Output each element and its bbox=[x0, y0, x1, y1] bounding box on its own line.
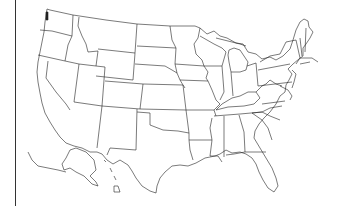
ia-il-border bbox=[204, 66, 208, 81]
nd-sd-border bbox=[137, 46, 176, 48]
or-ca-nv-border bbox=[38, 55, 65, 61]
ne-ia-border bbox=[177, 73, 185, 88]
ut-co-border bbox=[96, 66, 105, 106]
alaska bbox=[62, 148, 98, 186]
nv-ut-border bbox=[74, 64, 79, 102]
wi-upper-mi bbox=[200, 36, 226, 66]
ut-az-border bbox=[74, 102, 102, 106]
la-tx-border bbox=[189, 140, 193, 160]
wa-or-border bbox=[40, 30, 72, 36]
va-nc-border bbox=[262, 101, 285, 104]
ct-ri-border bbox=[300, 62, 310, 64]
or-id-border bbox=[65, 36, 72, 61]
id-mt-border bbox=[78, 17, 98, 66]
wy-border bbox=[96, 49, 135, 80]
mn-ia-border bbox=[175, 64, 204, 66]
dakotas-mn-border bbox=[170, 26, 177, 73]
oh-pa-border bbox=[247, 63, 258, 86]
mi-upper-peninsula bbox=[216, 38, 246, 46]
puget-sound bbox=[46, 12, 48, 20]
co-nm-border bbox=[102, 106, 140, 109]
md-de bbox=[280, 86, 292, 100]
nm-tx-border bbox=[107, 109, 137, 155]
aleutian-islands bbox=[28, 152, 66, 172]
ar-la-border bbox=[189, 133, 212, 140]
mo-il-border bbox=[208, 81, 220, 110]
wa-id-border bbox=[72, 15, 73, 36]
vt-nh-border bbox=[300, 38, 302, 56]
ma-border bbox=[300, 58, 318, 62]
in-oh-border bbox=[231, 72, 233, 96]
nh-me-border bbox=[305, 28, 306, 52]
hawaii-big-island bbox=[114, 186, 120, 192]
ks-ok-border bbox=[140, 109, 186, 110]
michigan-lower bbox=[228, 48, 248, 72]
ks-mo-border bbox=[183, 85, 186, 110]
az-nm-border bbox=[97, 106, 102, 148]
co-east-border bbox=[105, 81, 143, 109]
sd-ne-border bbox=[135, 64, 177, 73]
al-fl-border bbox=[226, 152, 266, 155]
tn-border bbox=[214, 106, 282, 116]
ca-nv-border bbox=[46, 61, 70, 110]
ar-ms-border bbox=[210, 118, 212, 140]
ok-ar-border bbox=[186, 110, 189, 133]
ne-ks-border bbox=[143, 84, 183, 85]
al-ga-border bbox=[239, 115, 245, 152]
ok-tx-border bbox=[137, 112, 189, 133]
ny-border bbox=[260, 40, 300, 64]
id-nv-ut-border bbox=[65, 61, 96, 66]
us-outline bbox=[37, 9, 313, 193]
mo-border-south bbox=[186, 110, 216, 116]
nj bbox=[292, 70, 296, 88]
la-ms-border bbox=[210, 140, 222, 162]
ia-mo-border bbox=[180, 80, 208, 81]
us-states-map bbox=[0, 0, 340, 206]
ny-pa-border bbox=[258, 64, 290, 70]
mt-nd-border bbox=[135, 24, 137, 53]
mn-wi-border bbox=[194, 28, 204, 66]
ga-sc-border bbox=[252, 113, 272, 140]
il-in-border bbox=[220, 66, 224, 100]
